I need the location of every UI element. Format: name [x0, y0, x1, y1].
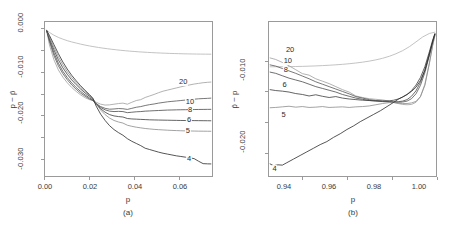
curve-label-8: 8: [283, 66, 288, 74]
curve-n-6: [270, 34, 435, 101]
curve-n-6: [47, 31, 211, 121]
panel-a-caption: (a): [98, 208, 158, 217]
panel-b-xtick-0: 0.94: [269, 182, 299, 191]
panel-a-ytick-0: 0.000: [16, 2, 25, 44]
panel-b-xtick-3: 1.00: [404, 182, 434, 191]
panel-b-xtick-1: 0.96: [314, 182, 344, 191]
curve-n-4: [270, 34, 435, 165]
ytick-0: [41, 28, 44, 29]
panel-a-ytick-3: -0.030: [16, 138, 25, 180]
curve-label-4: 4: [272, 165, 277, 173]
panel-b: -0.010 -0.020 p̂ − p 0.94 0.96 0.98 1.00…: [228, 0, 456, 229]
xtick-0: [44, 177, 45, 180]
ytick-minor-1: [41, 94, 44, 95]
panel-a-x-axis-title: p: [98, 195, 158, 204]
xtick-1: [89, 177, 90, 180]
panel-b-ytick-0: -0.010: [238, 49, 247, 91]
curve-n-20b: [47, 31, 211, 105]
ytick-0: [265, 91, 268, 92]
panel-b-x-axis-title: p: [323, 195, 383, 204]
ytick-minor-2: [41, 137, 44, 138]
ytick-minor-0: [41, 50, 44, 51]
panel-b-curves: [269, 22, 436, 176]
xtick-3: [437, 177, 438, 180]
curve-label-20: 20: [285, 46, 294, 54]
curve-n-20: [46, 30, 211, 54]
panel-b-xtick-2: 0.98: [359, 182, 389, 191]
curve-n-20: [270, 32, 435, 67]
xtick-3: [179, 177, 180, 180]
ytick-minor-0: [265, 122, 268, 123]
panel-a-xtick-1: 0.02: [75, 182, 105, 191]
panel-a: 0.000 -0.010 -0.020 -0.030 p − p̂ 0.00 0…: [0, 0, 228, 229]
panel-a-xtick-2: 0.04: [120, 182, 150, 191]
panel-a-ytick-1: -0.010: [16, 46, 25, 88]
curve-label-6: 6: [186, 116, 191, 124]
xtick-2: [134, 177, 135, 180]
xtick-2: [392, 177, 393, 180]
curve-label-10: 10: [283, 57, 292, 65]
curve-label-5: 5: [281, 111, 286, 119]
panel-a-ytick-2: -0.020: [16, 92, 25, 134]
curve-label-8: 8: [188, 106, 193, 114]
xtick-1: [347, 177, 348, 180]
panel-a-y-axis-title: p − p̂: [8, 80, 17, 120]
curve-label-6: 6: [282, 81, 287, 89]
xtick-0: [302, 177, 303, 180]
curve-label-20: 20: [179, 78, 188, 86]
figure-two-panel-bias-plots: 0.000 -0.010 -0.020 -0.030 p − p̂ 0.00 0…: [0, 0, 456, 229]
panel-b-caption: (b): [323, 208, 383, 217]
panel-a-xtick-3: 0.06: [165, 182, 195, 191]
curve-label-5: 5: [185, 127, 190, 135]
ytick-1: [265, 153, 268, 154]
ytick-2: [41, 115, 44, 116]
curve-label-4: 4: [186, 155, 191, 163]
ytick-1: [41, 72, 44, 73]
ytick-minor-lead: [265, 61, 268, 62]
panel-b-ytick-1: -0.020: [238, 121, 247, 163]
panel-b-y-axis-title: p̂ − p: [230, 80, 239, 120]
panel-a-xtick-0: 0.00: [30, 182, 60, 191]
ytick-3: [41, 159, 44, 160]
